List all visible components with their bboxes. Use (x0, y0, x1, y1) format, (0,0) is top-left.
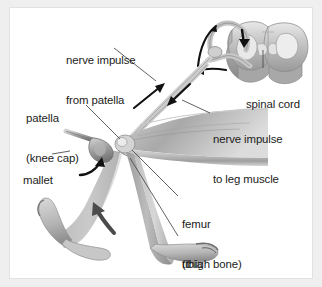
label-mallet: mallet (23, 148, 53, 214)
label-line: nerve impulse (213, 133, 283, 146)
label-line: nerve impulse (66, 54, 136, 67)
label-line: femur (182, 218, 242, 231)
label-line: to leg muscle (213, 173, 283, 186)
label-line: tibia (182, 258, 232, 271)
leader-nerve-to-muscle (182, 100, 210, 113)
figure-panel: nerve impulse from patella patella (knee… (9, 7, 313, 279)
label-line: patella (26, 112, 79, 125)
label-tibia: tibia (leg bone) (182, 232, 232, 279)
label-line: mallet (23, 174, 53, 187)
reflex-arc-figure: nerve impulse from patella patella (knee… (0, 0, 322, 287)
